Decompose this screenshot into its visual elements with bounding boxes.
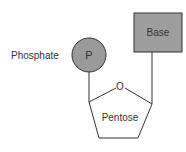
ring-edge-right-to-bottom (138, 104, 152, 138)
phosphate-label: Phosphate (11, 50, 59, 61)
pentose-ring: O Pentose (89, 81, 152, 138)
phosphate-group: P (72, 38, 106, 72)
base-label: Base (147, 27, 170, 38)
nucleotide-diagram: Phosphate P Base O Pentose (0, 0, 186, 152)
phosphate-symbol: P (85, 49, 92, 61)
base-group: Base (134, 13, 182, 52)
ring-edge-left-to-oxygen (89, 88, 116, 102)
pentose-label: Pentose (102, 112, 139, 123)
ring-edge-oxygen-to-right (125, 88, 152, 104)
oxygen-atom: O (116, 81, 124, 92)
ring-edge-bottom-to-left (89, 102, 99, 138)
